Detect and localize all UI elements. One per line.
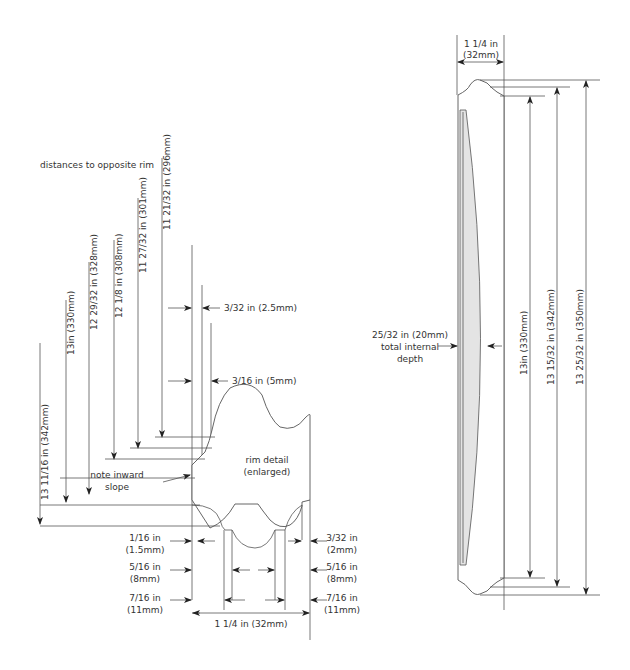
width-dim-label: 1 1/4 in (32mm)	[214, 619, 287, 629]
distances-heading: distances to opposite rim	[40, 160, 154, 170]
rim-detail-label-2: (enlarged)	[244, 467, 291, 477]
distance-label-330: 13in (330mm)	[66, 291, 76, 355]
right-width-mm: (32mm)	[463, 50, 499, 60]
right-width-in: 1 1/4 in	[464, 39, 498, 49]
dim-2mm-in: 3/32 in	[326, 533, 357, 543]
dim-11mm-left-mm: (11mm)	[127, 605, 163, 615]
distance-label-342: 13 11/16 in (342mm)	[40, 404, 50, 500]
note-line-2: slope	[105, 482, 129, 492]
height-label-330: 13in (330mm)	[519, 311, 529, 375]
dim-8mm-right-in: 5/16 in	[326, 562, 357, 572]
dim-11mm-right-mm: (11mm)	[324, 605, 360, 615]
dim-11mm-left-in: 7/16 in	[129, 593, 160, 603]
dim-1-5mm-in: 1/16 in	[129, 533, 160, 543]
depth-label-3: depth	[397, 354, 423, 364]
dim-11mm-right-in: 7/16 in	[326, 593, 357, 603]
rim-detail-label-1: rim detail	[245, 455, 288, 465]
rim-diagram: distances to opposite rim 13 11/16 in (3…	[0, 0, 630, 670]
distance-label-301: 11 27/32 in (301mm)	[138, 177, 148, 273]
dim-2mm-mm: (2mm)	[327, 545, 357, 555]
depth-label-2: total internal	[381, 342, 439, 352]
dim-8mm-left-in: 5/16 in	[129, 562, 160, 572]
dim-2-5mm: 3/32 in (2.5mm)	[224, 303, 297, 313]
dim-8mm-left-mm: (8mm)	[130, 574, 160, 584]
height-label-342: 13 15/32 in (342mm)	[546, 289, 556, 385]
dim-1-5mm-mm: (1.5mm)	[126, 545, 165, 555]
distance-label-296: 11 21/32 in (296mm)	[162, 134, 172, 230]
height-label-350: 13 25/32 in (350mm)	[575, 289, 585, 385]
distance-label-328: 12 29/32 in (328mm)	[89, 234, 99, 330]
rim-reference-lines	[192, 245, 211, 600]
distance-label-308: 12 1/8 in (308mm)	[114, 234, 124, 318]
dim-8mm-right-mm: (8mm)	[327, 574, 357, 584]
note-line-1: note inward	[90, 470, 143, 480]
depth-label-1: 25/32 in (20mm)	[372, 330, 448, 340]
